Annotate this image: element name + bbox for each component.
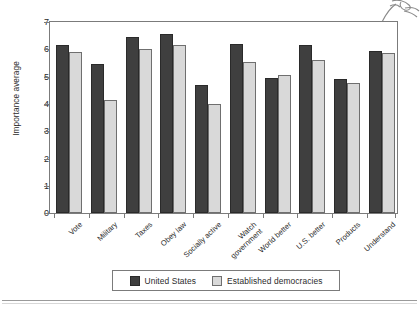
bar-group [160,22,186,213]
x-tick-mark [228,214,229,218]
bar-u-s-better-established [312,60,325,213]
x-tick-mark [124,214,125,218]
x-tick-mark [332,214,333,218]
bar-vote-established [69,52,82,213]
bars-layer [50,22,397,213]
x-tick-mark [395,214,396,218]
x-tick-label: Products [334,220,362,247]
x-tick-mark [297,214,298,218]
legend-label: United States [145,276,197,286]
bar-group [126,22,152,213]
bar-watch-government-us [230,44,243,213]
x-tick-label: World better [256,220,292,255]
x-tick-mark [367,214,368,218]
x-tick-mark [263,214,264,218]
bar-taxes-established [139,49,152,213]
legend-label: Established democracies [227,276,322,286]
bar-vote-us [56,45,69,213]
legend-entry-united-states: United States [130,276,197,286]
bar-group [299,22,325,213]
bar-world-better-established [278,75,291,213]
bar-products-us [334,79,347,213]
x-tick-label: Obey law [159,220,188,248]
legend-swatch-icon [212,276,222,286]
legend-entry-established-democracies: Established democracies [212,276,322,286]
x-tick-label: Military [95,220,119,243]
bar-group [265,22,291,213]
chart-legend: United States Established democracies [112,270,340,291]
x-tick-mark [193,214,194,218]
y-axis: 7 6 5 4 3 2 1 0 Importance average [0,0,49,300]
page-divider-rule-shadow [2,303,417,304]
bar-understand-established [382,53,395,213]
bar-obey-law-us [160,34,173,213]
x-tick-label: Watchgovernment [223,220,265,261]
bar-u-s-better-us [299,45,312,213]
x-tick-mark [158,214,159,218]
legend-swatch-icon [130,276,140,286]
page-divider-rule [2,300,417,301]
bar-group [56,22,82,213]
bar-world-better-us [265,78,278,213]
bar-group [334,22,360,213]
bar-watch-government-established [243,62,256,213]
bar-military-us [91,64,104,213]
x-tick-mark [54,214,55,218]
bar-socially-active-established [208,104,221,213]
bar-group [195,22,221,213]
bar-group [369,22,395,213]
bar-obey-law-established [173,45,186,213]
bar-chart-figure: 7 6 5 4 3 2 1 0 Importance average VoteM… [0,0,419,300]
bar-understand-us [369,51,382,213]
bar-products-established [347,83,360,213]
x-tick-label: Taxes [133,220,154,240]
bar-group [230,22,256,213]
x-tick-mark [89,214,90,218]
x-tick-label: Understand [362,220,397,253]
x-tick-label: U.S. better [295,220,328,251]
y-axis-title: Importance average [12,39,21,159]
bar-socially-active-us [195,85,208,213]
x-tick-label: Vote [67,220,84,237]
bar-military-established [104,100,117,213]
bar-group [91,22,117,213]
bar-taxes-us [126,37,139,213]
